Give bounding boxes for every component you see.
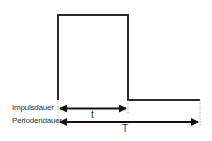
pulse-waveform-line bbox=[58, 15, 200, 100]
pulse-duration-label: Impulsdauer bbox=[12, 103, 54, 112]
pulse-symbol: t bbox=[91, 109, 94, 120]
pulse-diagram: Impulsdauer Periodendauer t T bbox=[0, 0, 212, 141]
period-duration-label: Periodendauer bbox=[12, 116, 62, 125]
period-symbol: T bbox=[122, 123, 128, 134]
